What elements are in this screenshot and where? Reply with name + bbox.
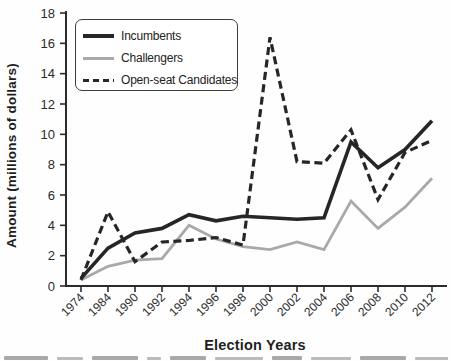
x-tick-label-1994: 1994: [166, 290, 195, 319]
x-tick-label-1984: 1984: [85, 290, 114, 319]
y-tick-label-4: 4: [48, 218, 55, 233]
y-axis-title: Amount (millions of dollars): [0, 22, 22, 290]
x-tick-label-1974: 1974: [58, 290, 87, 319]
x-tick-label-1990: 1990: [112, 290, 141, 319]
x-tick-label-2004: 2004: [301, 290, 330, 319]
y-tick-label-6: 6: [48, 188, 55, 203]
x-tick-label-1992: 1992: [139, 290, 168, 319]
x-tick-label-2008: 2008: [355, 290, 384, 319]
x-tick-label-2010: 2010: [382, 290, 411, 319]
legend-line-sample-challengers: [83, 57, 114, 60]
legend-line-sample-open-seat-candidates: [83, 79, 114, 82]
x-tick-label-2006: 2006: [328, 290, 357, 319]
legend-label: Challengers: [121, 51, 183, 65]
y-tick-label-8: 8: [48, 157, 55, 172]
y-tick-label-16: 16: [41, 36, 55, 51]
y-tick-label-0: 0: [48, 279, 55, 294]
x-tick-label-1996: 1996: [193, 290, 222, 319]
x-tick-label-2012: 2012: [409, 290, 438, 319]
y-tick-label-2: 2: [48, 248, 55, 263]
y-tick-label-10: 10: [41, 127, 55, 142]
y-tick-label-12: 12: [41, 97, 55, 112]
cropped-caption-fragment: [4, 356, 448, 361]
y-tick-label-14: 14: [41, 66, 55, 81]
x-axis-title: Election Years: [60, 337, 450, 353]
figure: 0246810121416181974198419901992199419961…: [0, 0, 451, 361]
x-tick-label-2002: 2002: [274, 290, 303, 319]
legend-item-incumbents: Incumbents: [83, 25, 237, 47]
legend-line-sample-incumbents: [83, 34, 114, 38]
x-tick-label-1998: 1998: [220, 290, 249, 319]
legend-item-open-seat-candidates: Open-seat Candidates: [83, 69, 237, 91]
legend-item-challengers: Challengers: [83, 47, 237, 69]
challengers-line: [81, 178, 432, 280]
x-tick-label-2000: 2000: [247, 290, 276, 319]
legend: Incumbents Challengers Open-seat Candida…: [75, 19, 238, 91]
legend-label: Incumbents: [121, 29, 181, 43]
legend-label: Open-seat Candidates: [121, 73, 237, 87]
y-tick-label-18: 18: [41, 6, 55, 21]
